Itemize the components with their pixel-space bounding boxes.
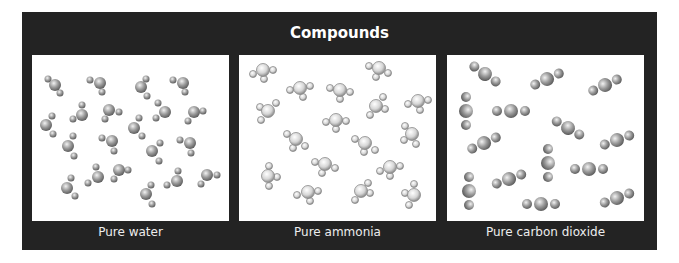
carbon-dioxide-molecules-illustration	[447, 55, 644, 221]
ammonia-molecules-illustration	[239, 55, 436, 221]
figure-title: Compounds	[22, 12, 657, 54]
water-panel	[32, 55, 229, 221]
carbon-dioxide-panel	[447, 55, 644, 221]
water-caption: Pure water	[32, 225, 229, 239]
water-molecules-illustration	[32, 55, 229, 221]
carbon-dioxide-caption: Pure carbon dioxide	[447, 225, 644, 239]
compounds-figure: Compounds	[22, 12, 657, 250]
ammonia-panel	[239, 55, 436, 221]
ammonia-caption: Pure ammonia	[239, 225, 436, 239]
